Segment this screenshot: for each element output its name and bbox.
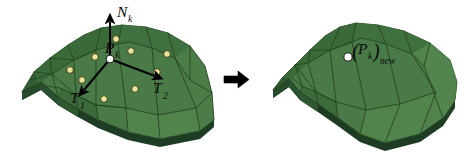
control-point [79,77,86,84]
label-pk-new-base: P [357,40,368,57]
label-pk-new-suffix: new [380,56,396,66]
label-tangent1-subscript: 1 [80,101,85,111]
point-pk-marker [106,55,114,63]
label-point-base: P [104,39,115,56]
control-point [92,54,99,61]
surface-patch-diagram: N k P k T 1 T 2 [0,0,476,159]
label-tangent1-base: T [70,89,80,106]
label-tangent2-base: T [153,79,163,96]
control-point [132,86,139,93]
control-point [154,69,161,76]
label-pk-new-close-paren: ) [372,40,380,63]
control-point [128,48,135,55]
point-pk-new-marker [344,53,352,61]
control-point [67,67,74,74]
control-point [101,96,108,103]
label-tangent2-subscript: 2 [163,91,168,101]
control-point [164,51,171,58]
